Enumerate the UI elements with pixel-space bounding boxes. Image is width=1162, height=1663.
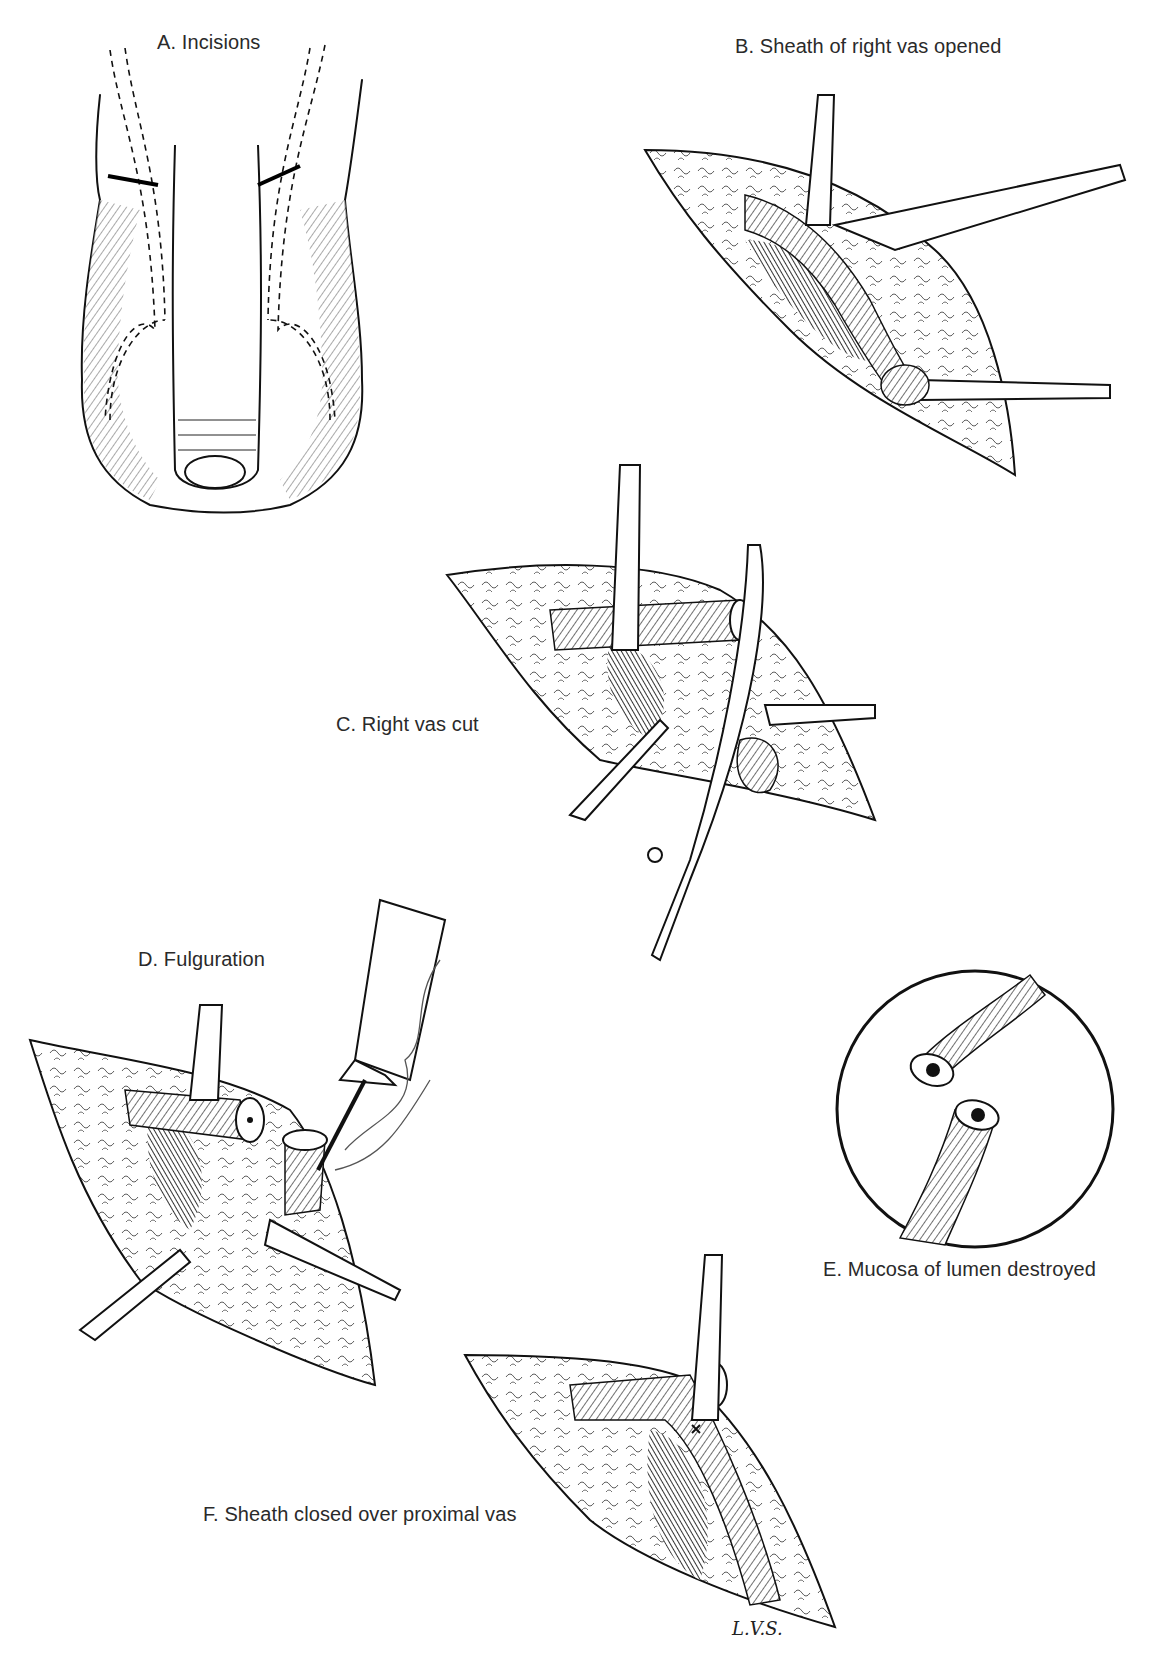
forceps [692, 1255, 722, 1420]
panel-f-illustration [0, 0, 1162, 1663]
sheath-closed-drawing [0, 0, 1162, 1663]
